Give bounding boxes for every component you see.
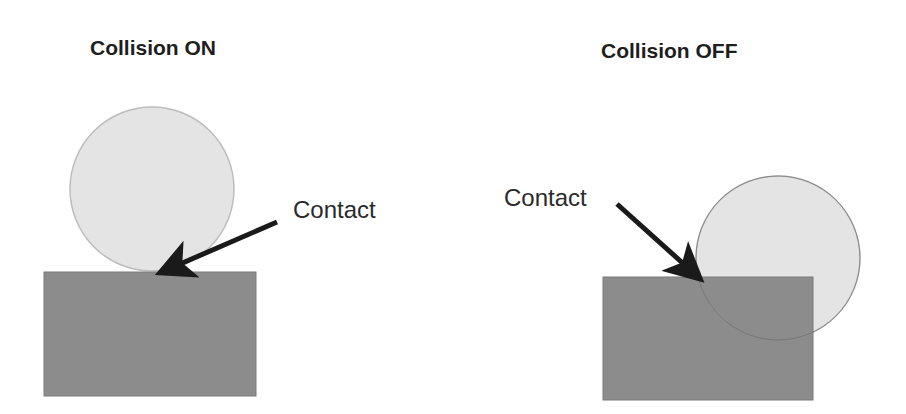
box-shape — [603, 277, 813, 400]
panel-collision-off — [603, 176, 860, 400]
box-shape — [44, 272, 256, 396]
contact-label: Contact — [293, 196, 376, 224]
panel-title-collision-off: Collision OFF — [601, 39, 738, 63]
collision-diagram — [0, 0, 906, 414]
panel-collision-on — [44, 107, 277, 396]
panel-title-collision-on: Collision ON — [90, 36, 216, 60]
sphere-shape — [70, 107, 234, 271]
contact-label: Contact — [504, 184, 587, 212]
contact-arrow-icon — [617, 204, 697, 276]
